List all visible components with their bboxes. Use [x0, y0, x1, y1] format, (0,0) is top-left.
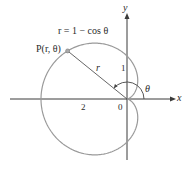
point-label: P(r, θ): [36, 44, 61, 54]
y-axis-label: y: [123, 3, 127, 13]
x-axis-arrow-icon: [170, 97, 176, 102]
tick-label-x-2: 2: [81, 103, 86, 112]
radius-label: r: [96, 63, 100, 73]
angle-arc: [114, 82, 144, 99]
point-p: [66, 49, 70, 53]
cardioid-diagram: r = 1 − cos θ P(r, θ) r 1 θ 2 0 x y: [0, 0, 185, 169]
angle-label: θ: [145, 84, 150, 94]
radius-segment: [68, 51, 127, 99]
x-axis-label: x: [177, 93, 181, 103]
tick-label-y-1: 1: [121, 64, 126, 73]
origin-label: 0: [118, 103, 123, 112]
equation-label: r = 1 − cos θ: [58, 26, 108, 36]
y-axis-arrow-icon: [125, 13, 130, 19]
